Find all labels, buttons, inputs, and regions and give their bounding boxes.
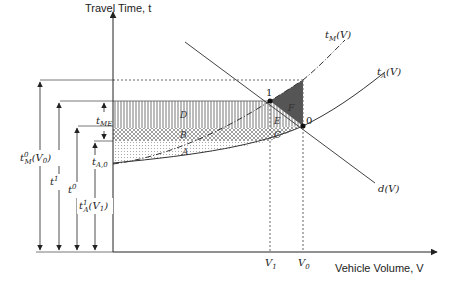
y-axis-label: Travel Time, t (85, 2, 151, 14)
region-e-label: E (273, 116, 281, 126)
region-d-fill (113, 101, 270, 128)
average-cost-label: tA(V) (377, 66, 401, 80)
region-f-label: F (287, 103, 295, 113)
x-tick-v0: V0 (298, 257, 310, 271)
x-axis-label: Vehicle Volume, V (335, 262, 424, 274)
region-c-label: C (274, 130, 281, 140)
point-0-marker (301, 124, 306, 129)
region-a-label: A (181, 147, 189, 157)
demand-label: d(V) (378, 183, 400, 194)
region-b-label: B (179, 130, 187, 140)
toll-pricing-diagram: Travel Time, t Vehicle Volume, V tM(V) t… (0, 0, 458, 281)
region-d-label: D (179, 110, 187, 120)
x-tick-v1: V1 (265, 257, 277, 271)
region-b-fill (113, 128, 270, 141)
point-0-label: 0 (306, 115, 312, 126)
point-1-marker (268, 99, 273, 104)
marginal-cost-label: tM(V) (325, 29, 351, 43)
point-1-label: 1 (266, 87, 272, 98)
